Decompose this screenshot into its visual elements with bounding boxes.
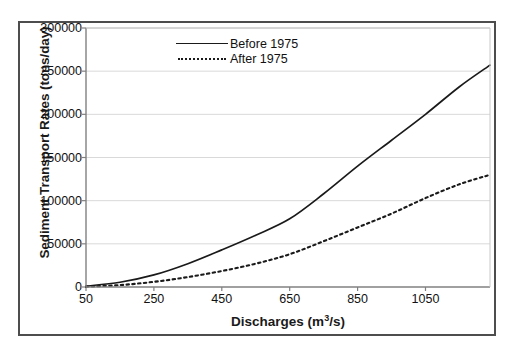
sediment-transport-chart: Sediment Transport Rates (tons/day) 0500… bbox=[0, 0, 512, 357]
x-axis-title: Discharges (m3/s) bbox=[86, 314, 490, 329]
legend-line-dotted-icon bbox=[176, 54, 228, 64]
legend-label-before-1975: Before 1975 bbox=[230, 37, 298, 51]
x-axis-title-tail: /s) bbox=[329, 314, 345, 329]
legend-item-after-1975: After 1975 bbox=[176, 51, 298, 66]
x-axis-title-base: Discharges (m bbox=[231, 314, 324, 329]
series-line-2 bbox=[86, 175, 490, 287]
legend-label-after-1975: After 1975 bbox=[230, 52, 288, 66]
data-series-layer bbox=[86, 65, 490, 287]
series-line-1 bbox=[86, 65, 490, 286]
chart-legend: Before 1975 After 1975 bbox=[176, 36, 298, 66]
legend-item-before-1975: Before 1975 bbox=[176, 36, 298, 51]
legend-line-solid-icon bbox=[176, 39, 228, 49]
